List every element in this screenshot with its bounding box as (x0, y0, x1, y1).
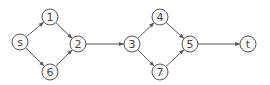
edge-7-to-5 (166, 49, 184, 66)
edge-1-to-2 (56, 23, 72, 39)
node-label: t (246, 38, 251, 51)
node-s: s (12, 34, 28, 50)
edge-s-to-6 (26, 48, 45, 67)
node-2: 2 (70, 36, 86, 52)
node-label: 4 (157, 11, 164, 24)
graph-diagram: s1623475t (0, 0, 270, 85)
node-4: 4 (152, 9, 168, 25)
node-7: 7 (152, 64, 168, 80)
node-label: 6 (47, 66, 54, 79)
edge-s-to-1 (26, 22, 44, 37)
node-label: 1 (47, 11, 54, 24)
node-5: 5 (182, 36, 198, 52)
node-6: 6 (42, 64, 58, 80)
node-label: 3 (129, 38, 136, 51)
node-label: 2 (75, 38, 82, 51)
node-1: 1 (42, 9, 58, 25)
edge-3-to-7 (138, 50, 155, 67)
node-label: s (17, 36, 23, 49)
edge-4-to-5 (166, 22, 184, 38)
node-label: 7 (157, 66, 164, 79)
node-label: 5 (187, 38, 194, 51)
edge-3-to-4 (138, 23, 154, 39)
node-t: t (240, 36, 256, 52)
node-3: 3 (124, 36, 140, 52)
edge-6-to-2 (56, 50, 73, 67)
